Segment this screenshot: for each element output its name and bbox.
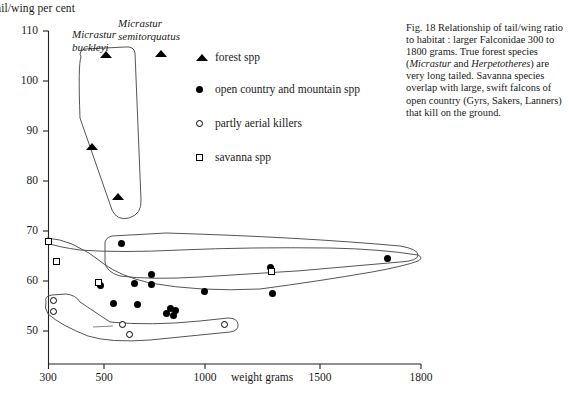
figure-caption: Fig. 18 Relationship of tail/wing ratio …: [406, 22, 566, 119]
data-point-savanna: [95, 279, 102, 286]
data-point-aerial-killer: [126, 331, 133, 338]
data-point-open-country: [110, 300, 117, 307]
annotation-micrastur-buckleyi: Micrastur buckleyi: [72, 28, 116, 53]
filled-circle-icon: [196, 86, 203, 93]
x-tick-label-1500: 1500: [292, 371, 348, 383]
data-point-aerial-killer: [221, 321, 228, 328]
legend-label: partly aerial killers: [215, 117, 302, 129]
data-point-open-country: [201, 288, 208, 295]
y-tick-label-60: 60: [4, 274, 38, 286]
x-tick-label-1800: 1800: [393, 371, 449, 383]
legend-label: open country and mountain spp: [215, 83, 360, 95]
x-axis-title: weight grams: [231, 371, 293, 383]
y-tick-label-70: 70: [4, 224, 38, 236]
annotation-line-2: semitorquatus: [118, 30, 180, 42]
caption-genus-name: Herpetotheres: [471, 58, 530, 69]
figure-18-scatter-plot: ail/wing per cent: [0, 0, 569, 397]
caption-text: and: [451, 58, 471, 69]
y-tick-label-80: 80: [4, 174, 38, 186]
data-point-open-country: [134, 301, 141, 308]
y-tick-label-110: 110: [4, 24, 38, 36]
data-point-savanna: [53, 258, 60, 265]
filled-triangle-icon: [196, 54, 208, 61]
annotation-line-1: Micrastur: [118, 17, 162, 29]
caption-genus-name: Micrastur: [409, 58, 451, 69]
y-tick-label-100: 100: [4, 74, 38, 86]
x-axis-ticks: [49, 364, 422, 369]
annotation-line-1: Micrastur: [72, 28, 116, 40]
data-point-aerial-killer: [119, 321, 126, 328]
data-point-open-country: [148, 281, 155, 288]
x-tick-label-500: 500: [76, 371, 132, 383]
data-point-forest-spp: [100, 51, 112, 58]
envelope-inner-line: [93, 326, 113, 327]
data-point-open-country: [148, 271, 155, 278]
y-axis-ticks: [43, 31, 49, 331]
forest-spp-envelope: [79, 47, 141, 219]
aerial-killers-envelope: [45, 294, 238, 341]
legend-label: forest spp: [215, 51, 260, 63]
data-point-open-country: [118, 240, 125, 247]
data-point-forest-spp: [155, 50, 167, 57]
x-tick-label-1000: 1000: [177, 371, 233, 383]
y-tick-label-50: 50: [4, 324, 38, 336]
data-point-aerial-killer: [50, 297, 57, 304]
y-tick-label-90: 90: [4, 124, 38, 136]
data-point-savanna: [268, 268, 275, 275]
data-point-savanna: [45, 238, 52, 245]
data-point-open-country: [269, 290, 276, 297]
data-point-open-country: [384, 255, 391, 262]
open-circle-icon: [196, 120, 203, 127]
data-point-forest-spp: [86, 143, 98, 150]
data-point-open-country: [172, 307, 179, 314]
x-tick-label-300: 300: [20, 371, 76, 383]
data-point-open-country: [131, 280, 138, 287]
annotation-micrastur-semitorquatus: Micrastur semitorquatus: [118, 17, 180, 42]
data-point-forest-spp: [112, 193, 124, 200]
legend-label: savanna spp: [215, 151, 271, 163]
data-point-aerial-killer: [50, 308, 57, 315]
open-square-icon: [196, 154, 203, 161]
savanna-envelope: [47, 238, 421, 290]
